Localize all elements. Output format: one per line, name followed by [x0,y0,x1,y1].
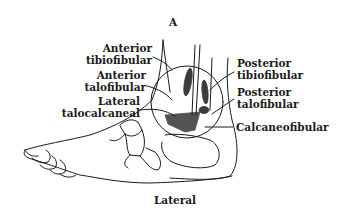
label-posterior-talofibular: Posterior talofibular [237,86,299,110]
label-line: Lateral [40,95,140,107]
label-line: talofibular [237,98,299,110]
sole-outline [24,150,232,183]
label-line: Anterior [60,42,152,54]
fibula-line-1 [192,45,195,115]
leader-ant-tibiofibular [153,57,172,70]
label-line: Anterior [50,69,146,81]
calcaneus [162,134,220,168]
label-anterior-talofibular: Anterior talofibular [50,69,146,93]
fibula-line-2 [196,45,200,115]
label-line: tibiofibular [60,54,152,66]
label-line: tibiofibular [237,69,303,81]
label-calcaneofibular: Calcaneofibular [236,121,329,133]
label-line: Posterior [237,86,299,98]
label-line: Posterior [237,57,303,69]
fibula-line-3 [210,58,212,110]
toe-1 [25,150,38,156]
ankle-ligament-diagram: A Anterior tibiofibular Anterior talofib… [0,0,349,216]
label-lateral-talocalcaneal: Lateral talocalcaneal [40,95,140,119]
label-line: Calcaneofibular [236,121,329,133]
ligament-posterior-tibiofibular [201,80,209,104]
ligament-posterior-talofibular [199,107,209,114]
label-line: talocalcaneal [40,107,140,119]
label-anterior-tibiofibular: Anterior tibiofibular [60,42,152,66]
label-posterior-tibiofibular: Posterior tibiofibular [237,57,303,81]
label-line: talofibular [50,81,146,93]
tarsal-bones [110,120,161,170]
ligament-calcaneofibular [165,112,200,132]
view-caption: Lateral [140,194,210,206]
panel-letter: A [166,16,180,28]
toe-5 [60,174,76,177]
toe-4 [50,160,66,174]
ligament-anterior-tibiofibular [182,68,194,97]
leader-post-tibiofibular [210,72,234,90]
